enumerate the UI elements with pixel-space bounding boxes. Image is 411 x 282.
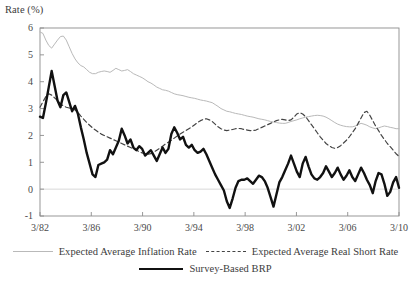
chart-legend: Expected Average Inflation Rate Expected… bbox=[0, 243, 411, 277]
svg-text:2: 2 bbox=[28, 130, 33, 141]
svg-text:3/94: 3/94 bbox=[185, 222, 203, 233]
svg-text:1: 1 bbox=[28, 157, 33, 168]
svg-text:3/06: 3/06 bbox=[339, 222, 357, 233]
legend-row-top: Expected Average Inflation Rate Expected… bbox=[0, 243, 411, 260]
svg-text:3/90: 3/90 bbox=[134, 222, 152, 233]
svg-text:3/86: 3/86 bbox=[82, 222, 100, 233]
series-line-0 bbox=[40, 32, 399, 129]
legend-label-brp: Survey-Based BRP bbox=[189, 263, 271, 274]
legend-row-bottom: Survey-Based BRP bbox=[0, 260, 411, 277]
series-line-1 bbox=[40, 94, 399, 157]
legend-swatch-brp-line-icon bbox=[139, 268, 183, 270]
legend-item-real-short-rate: Expected Average Real Short Rate bbox=[206, 246, 399, 257]
axis-ticks bbox=[40, 28, 399, 216]
y-axis-tick-labels: -10123456 bbox=[25, 22, 33, 221]
chart-figure: Rate (%) -10123456 3/823/863/903/943/983… bbox=[0, 0, 411, 282]
plot-area: -10123456 3/823/863/903/943/983/023/063/… bbox=[0, 0, 411, 243]
legend-swatch-real-short-rate-dashed-icon bbox=[206, 251, 246, 252]
plot-frame bbox=[40, 28, 399, 216]
svg-text:3: 3 bbox=[28, 103, 33, 114]
svg-text:4: 4 bbox=[28, 76, 33, 87]
legend-swatch-inflation-line-icon bbox=[13, 251, 53, 252]
x-axis-tick-labels: 3/823/863/903/943/983/023/063/10 bbox=[31, 222, 408, 233]
series-lines bbox=[40, 32, 399, 208]
svg-text:3/82: 3/82 bbox=[31, 222, 49, 233]
svg-text:5: 5 bbox=[28, 49, 33, 60]
svg-text:0: 0 bbox=[28, 184, 33, 195]
svg-text:6: 6 bbox=[28, 22, 33, 33]
svg-text:3/10: 3/10 bbox=[390, 222, 408, 233]
legend-label-inflation: Expected Average Inflation Rate bbox=[59, 246, 197, 257]
legend-label-real-short-rate: Expected Average Real Short Rate bbox=[252, 246, 399, 257]
svg-text:3/02: 3/02 bbox=[288, 222, 306, 233]
legend-item-inflation: Expected Average Inflation Rate bbox=[13, 246, 197, 257]
svg-text:-1: -1 bbox=[25, 210, 33, 221]
series-line-2 bbox=[40, 71, 399, 208]
svg-text:3/98: 3/98 bbox=[236, 222, 254, 233]
legend-item-brp: Survey-Based BRP bbox=[139, 263, 271, 274]
